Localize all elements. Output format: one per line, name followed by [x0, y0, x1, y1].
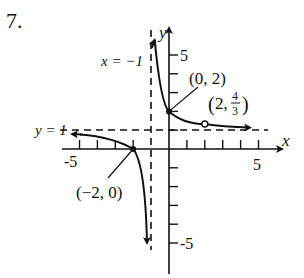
x-tick-label-5: 5	[253, 156, 261, 173]
label-x-intercept: (−2, 0)	[76, 183, 122, 202]
label-hole: ( 2, 4 3 )	[208, 89, 249, 118]
svg-text:(: (	[208, 93, 215, 116]
y-tick-label-5: 5	[180, 47, 188, 64]
x-tick-label-neg5: -5	[64, 153, 77, 170]
label-y-intercept: (0, 2)	[189, 69, 226, 88]
svg-text:): )	[242, 93, 249, 116]
y-axis-label: y	[157, 23, 167, 42]
vertical-asymptote-label: x = −1	[100, 53, 143, 69]
y-tick-label-neg5: -5	[180, 235, 193, 252]
svg-text:2,: 2,	[215, 94, 228, 113]
graph: y x -5 5 5 -5 x = −1 y = 1 (0, 2) (−2, 0…	[0, 0, 304, 278]
svg-text:4: 4	[232, 89, 238, 103]
x-axis-label: x	[281, 131, 290, 150]
svg-text:3: 3	[232, 104, 238, 118]
point-hole	[202, 121, 208, 127]
horizontal-asymptote-label: y = 1	[33, 122, 67, 138]
